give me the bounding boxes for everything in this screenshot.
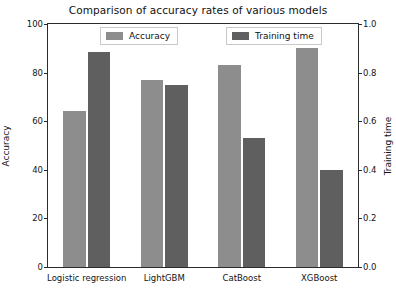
legend-item-accuracy: Accuracy xyxy=(100,27,178,45)
legend-label-accuracy: Accuracy xyxy=(129,31,170,41)
y-axis-right-tick-label: 0.0 xyxy=(363,262,377,272)
chart-title: Comparison of accuracy rates of various … xyxy=(0,4,396,16)
legend-swatch-accuracy-icon xyxy=(106,32,123,40)
y-axis-left-tick-label: 0 xyxy=(38,262,43,272)
y-axis-left-tick-mark xyxy=(44,24,48,25)
bar-accuracy-3 xyxy=(218,65,240,267)
y-axis-left-tick-mark xyxy=(44,73,48,74)
bar-accuracy-4 xyxy=(296,48,318,267)
y-axis-right-tick-label: 1.0 xyxy=(363,19,377,29)
bar-accuracy-1 xyxy=(63,111,85,267)
bar-accuracy-2 xyxy=(141,80,163,267)
x-axis-tick-label: CatBoost xyxy=(223,273,261,283)
chart-figure: Comparison of accuracy rates of various … xyxy=(0,0,396,305)
y-axis-right-tick-label: 0.4 xyxy=(363,165,377,175)
y-axis-left-tick-label: 60 xyxy=(32,116,43,126)
y-axis-left-tick-label: 40 xyxy=(32,165,43,175)
bar-training-time-3 xyxy=(243,138,265,267)
y-axis-left-tick-mark xyxy=(44,267,48,268)
y-axis-right-label: Training time xyxy=(383,117,393,176)
bar-training-time-4 xyxy=(320,170,342,267)
bars-layer xyxy=(48,24,358,267)
y-axis-right-tick-label: 0.6 xyxy=(363,116,377,126)
legend-label-training-time: Training time xyxy=(255,31,314,41)
x-axis-tick-label: Logistic regression xyxy=(47,273,126,283)
y-axis-left-tick-mark xyxy=(44,121,48,122)
y-axis-right-tick-label: 0.8 xyxy=(363,68,377,78)
y-axis-right-tick-mark xyxy=(358,267,362,268)
y-axis-left-label: Accuracy xyxy=(1,125,11,166)
y-axis-left-tick-mark xyxy=(44,218,48,219)
y-axis-right-tick-mark xyxy=(358,218,362,219)
legend-swatch-training-time-icon xyxy=(232,32,249,40)
y-axis-right-tick-mark xyxy=(358,121,362,122)
bar-training-time-2 xyxy=(165,85,187,267)
y-axis-left-tick-label: 20 xyxy=(32,213,43,223)
y-axis-right-tick-mark xyxy=(358,24,362,25)
y-axis-right-tick-mark xyxy=(358,73,362,74)
x-axis-tick-label: LightGBM xyxy=(144,273,185,283)
legend-item-training-time: Training time xyxy=(226,27,322,45)
y-axis-right-tick-label: 0.2 xyxy=(363,213,377,223)
y-axis-right-tick-mark xyxy=(358,170,362,171)
y-axis-left-tick-mark xyxy=(44,170,48,171)
y-axis-left-tick-label: 100 xyxy=(27,19,43,29)
plot-area: Logistic regressionLightGBMCatBoostXGBoo… xyxy=(47,23,359,268)
y-axis-left-tick-label: 80 xyxy=(32,68,43,78)
bar-training-time-1 xyxy=(88,52,110,267)
x-axis-tick-label: XGBoost xyxy=(301,273,337,283)
